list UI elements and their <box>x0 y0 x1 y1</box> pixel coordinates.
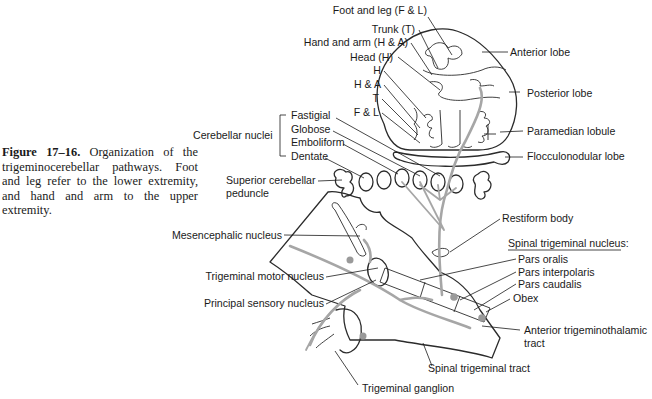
label-t: T <box>373 92 380 104</box>
label-h: H <box>373 64 381 76</box>
label-h-and-a: H & A <box>354 78 382 90</box>
label-globose: Globose <box>291 123 331 135</box>
label-f-and-l: F & L <box>354 106 379 118</box>
trigeminocerebellar-diagram: Foot and leg (F & L) Trunk (T) Hand and … <box>0 0 652 399</box>
label-pars-interpolaris: Pars interpolaris <box>518 266 595 278</box>
label-anterior-trigeminothalamic-tract: Anterior trigeminothalamic <box>524 324 648 336</box>
label-paramedian-lobule: Paramedian lobule <box>527 125 615 137</box>
cerebellar-nuclei-labels: Cerebellar nuclei Fastigial Globose Embo… <box>193 109 345 162</box>
label-mesencephalic-nucleus: Mesencephalic nucleus <box>172 229 282 241</box>
label-trigeminal-motor-nucleus: Trigeminal motor nucleus <box>205 270 324 282</box>
label-superior-cerebellar-peduncle-line2: peduncle <box>226 187 269 199</box>
label-principal-sensory-nucleus: Principal sensory nucleus <box>204 297 324 309</box>
cerebellum <box>377 29 516 166</box>
label-trigeminal-ganglion: Trigeminal ganglion <box>362 382 454 394</box>
label-head: Head (H) <box>350 51 393 63</box>
label-anterior-trigeminothalamic-tract-line2: tract <box>524 337 545 349</box>
somatotopy-labels: Foot and leg (F & L) Trunk (T) Hand and … <box>304 4 427 118</box>
label-spinal-trigeminal-nucleus-heading: Spinal trigeminal nucleus: <box>508 237 629 249</box>
label-dentate: Dentate <box>291 150 328 162</box>
spinal-trigeminal-nucleus-labels: Spinal trigeminal nucleus: Pars oralis P… <box>508 237 629 290</box>
label-superior-cerebellar-peduncle: Superior cerebellar <box>226 174 316 186</box>
label-fastigial: Fastigial <box>291 109 330 121</box>
label-flocculonodular-lobe: Flocculonodular lobe <box>527 150 625 162</box>
label-spinal-trigeminal-tract: Spinal trigeminal tract <box>428 362 530 374</box>
label-foot-and-leg: Foot and leg (F & L) <box>333 4 427 16</box>
label-obex: Obex <box>513 292 539 304</box>
label-emboliform: Emboliform <box>291 136 345 148</box>
label-hand-and-arm: Hand and arm (H & A) <box>304 36 408 48</box>
label-trunk: Trunk (T) <box>372 23 415 35</box>
label-anterior-lobe: Anterior lobe <box>510 46 570 58</box>
label-restiform-body: Restiform body <box>502 212 574 224</box>
label-pars-oralis: Pars oralis <box>518 253 568 265</box>
label-posterior-lobe: Posterior lobe <box>527 87 592 99</box>
label-pars-caudalis: Pars caudalis <box>518 278 582 290</box>
label-cerebellar-nuclei: Cerebellar nuclei <box>193 129 273 141</box>
cerebellum-labels: Anterior lobe Posterior lobe Paramedian … <box>510 46 625 162</box>
